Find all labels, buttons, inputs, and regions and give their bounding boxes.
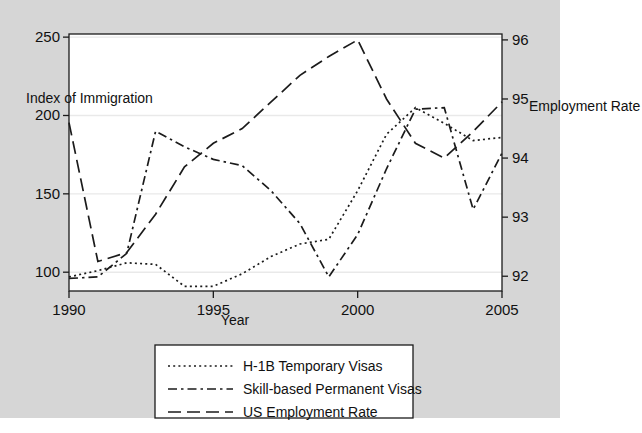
right-tick-label: 92	[512, 267, 529, 284]
chart-screenshot: 100150200250 9293949596 1990199520002005…	[0, 0, 642, 433]
left-tick-label: 250	[35, 28, 60, 45]
right-axis-tick-labels: 9293949596	[512, 31, 529, 284]
x-tick-label: 1990	[52, 301, 85, 318]
right-axis-title: Employment Rate	[529, 98, 640, 114]
left-tick-label: 200	[35, 106, 60, 123]
legend-label: H-1B Temporary Visas	[243, 358, 383, 374]
left-axis-ticks	[63, 37, 69, 272]
right-tick-label: 95	[512, 90, 529, 107]
x-tick-label: 2005	[485, 301, 518, 318]
legend-label: Skill-based Permanent Visas	[243, 381, 422, 397]
x-tick-label: 2000	[341, 301, 374, 318]
right-tick-label: 93	[512, 208, 529, 225]
legend-label: US Employment Rate	[243, 404, 378, 420]
x-axis-title: Year	[221, 312, 250, 328]
right-tick-label: 94	[512, 149, 529, 166]
legend: H-1B Temporary VisasSkill-based Permanen…	[155, 345, 422, 420]
x-axis-tick-labels: 1990199520002005	[52, 301, 518, 318]
right-tick-label: 96	[512, 31, 529, 48]
left-tick-label: 100	[35, 263, 60, 280]
left-axis-tick-labels: 100150200250	[35, 28, 60, 280]
left-axis-title: Index of Immigration	[26, 90, 153, 106]
plot-area-background	[69, 34, 502, 291]
line-chart: 100150200250 9293949596 1990199520002005…	[0, 0, 642, 433]
right-axis-ticks	[502, 40, 508, 276]
left-tick-label: 150	[35, 185, 60, 202]
x-axis-ticks	[69, 291, 502, 298]
